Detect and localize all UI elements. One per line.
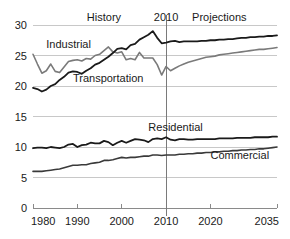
x-tick-label-2000: 2000 (109, 215, 133, 227)
y-tick-label-30: 30 (15, 19, 27, 31)
axes (33, 204, 277, 208)
series-line-residential (33, 137, 277, 149)
y-tick-label-25: 25 (15, 50, 27, 62)
series-label-industrial: Industrial (46, 38, 91, 50)
y-tick-label-0: 0 (21, 202, 27, 214)
series-label-transportation: Transportation (73, 72, 144, 84)
x-tick-label-1980: 1980 (31, 215, 55, 227)
chart-annotations: History2010Projections (87, 11, 247, 23)
series-line-industrial (33, 47, 277, 75)
series-label-residential: Residential (148, 121, 202, 133)
x-tick-label-2010: 2010 (154, 215, 178, 227)
x-tick-label-2020: 2020 (198, 215, 222, 227)
y-tick-label-5: 5 (21, 172, 27, 184)
energy-consumption-line-chart: 051015202530 198019902000201020202035 In… (0, 0, 290, 239)
y-tick-label-20: 20 (15, 80, 27, 92)
x-tick-label-2035: 2035 (255, 215, 279, 227)
y-tick-label-10: 10 (15, 141, 27, 153)
divider-year-label: 2010 (154, 11, 178, 23)
history-label: History (87, 11, 122, 23)
x-tick-label-1990: 1990 (65, 215, 89, 227)
series-annotations: IndustrialTransportationResidentialComme… (46, 38, 269, 162)
x-axis-tick-labels: 198019902000201020202035 (31, 215, 279, 227)
projections-label: Projections (192, 11, 247, 23)
y-axis-tick-labels: 051015202530 (15, 19, 27, 214)
y-tick-label-15: 15 (15, 111, 27, 123)
series-label-commercial: Commercial (210, 149, 269, 161)
chart-container: 051015202530 198019902000201020202035 In… (0, 0, 290, 239)
